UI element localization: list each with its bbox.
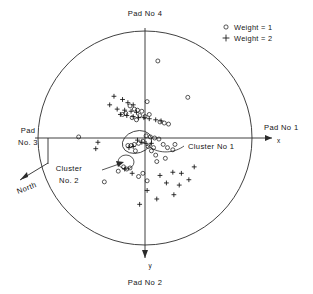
data-point-weight-2	[135, 138, 140, 143]
data-point-weight-1	[173, 142, 177, 146]
data-point-weight-1	[186, 95, 190, 99]
data-point-weight-2	[144, 141, 149, 146]
data-point-weight-2	[171, 192, 176, 197]
y-axis-arrowhead	[142, 250, 148, 258]
data-point-weight-2	[120, 97, 125, 102]
data-point-weight-1	[134, 118, 138, 122]
data-point-weight-2	[158, 173, 163, 178]
data-point-weight-1	[155, 160, 159, 164]
data-point-weight-2	[96, 140, 101, 145]
data-point-weight-2	[192, 164, 197, 169]
data-point-weight-2	[112, 94, 117, 99]
data-point-weight-2	[93, 146, 98, 151]
data-point-weight-2	[153, 117, 158, 122]
data-point-weight-1	[149, 149, 153, 153]
label-pad-no-2: Pad No 2	[128, 278, 162, 287]
data-point-weight-2	[139, 140, 144, 145]
data-point-weight-2	[147, 116, 152, 121]
data-point-weight-1	[133, 149, 137, 153]
data-point-weight-2	[159, 118, 164, 123]
data-point-weight-2	[179, 171, 184, 176]
data-point-weight-2	[130, 171, 135, 176]
label-cluster-no-2-line1: Cluster	[56, 164, 83, 173]
legend-circle-marker	[224, 25, 228, 29]
data-point-weight-1	[102, 180, 106, 184]
legend-label-weight-2: Weight = 2	[234, 34, 272, 43]
north-arrow-head	[20, 172, 28, 180]
data-point-weight-1	[145, 179, 149, 183]
data-point-weight-2	[107, 102, 112, 107]
data-point-weight-1	[163, 156, 167, 160]
data-point-weight-2	[129, 109, 134, 114]
data-point-weight-1	[141, 171, 145, 175]
data-point-weight-2	[125, 100, 130, 105]
data-point-weight-2	[136, 115, 141, 120]
data-point-weight-1	[165, 146, 169, 150]
data-point-weight-1	[116, 169, 120, 173]
data-point-weight-2	[137, 202, 142, 207]
data-point-weight-2	[186, 177, 191, 182]
data-point-weight-2	[170, 170, 175, 175]
data-point-weight-1	[161, 142, 165, 146]
data-point-weight-1	[140, 109, 144, 113]
scatter-plot-svg: Pad No 4 Pad No 1 x Pad No. 3 North y Pa…	[0, 0, 313, 294]
legend-label-weight-1: Weight = 1	[234, 23, 272, 32]
label-axis-x: x	[277, 137, 281, 144]
data-point-weight-1	[145, 100, 149, 104]
label-cluster-no-2-line2: No. 2	[59, 176, 79, 185]
label-pad-no-3-line2: No. 3	[18, 138, 38, 147]
data-point-weight-2	[177, 183, 182, 188]
data-point-weight-2	[115, 107, 120, 112]
data-point-weight-2	[154, 197, 159, 202]
label-pad-no-3-line1: Pad	[21, 126, 36, 135]
data-point-weight-1	[162, 121, 166, 125]
x-axis-arrowhead	[265, 135, 272, 141]
data-point-weight-1	[156, 59, 160, 63]
figure-root: Pad No 4 Pad No 1 x Pad No. 3 North y Pa…	[0, 0, 313, 294]
label-axis-y: y	[148, 262, 152, 270]
data-point-weight-1	[167, 122, 171, 126]
data-point-weight-2	[145, 188, 150, 193]
data-point-weight-1	[137, 175, 141, 179]
data-point-weight-1	[147, 112, 151, 116]
label-cluster-no-1: Cluster No 1	[188, 142, 234, 151]
label-pad-no-1: Pad No 1	[264, 123, 298, 132]
data-point-weight-2	[142, 115, 147, 120]
data-point-weight-2	[131, 102, 136, 107]
legend-plus-marker	[223, 35, 230, 42]
data-point-weight-2	[131, 144, 136, 149]
data-point-weight-2	[122, 108, 127, 113]
data-point-weight-1	[154, 153, 158, 157]
label-north: North	[15, 180, 37, 196]
data-point-weight-2	[127, 145, 132, 150]
label-pad-no-4: Pad No 4	[128, 9, 162, 18]
data-point-weight-2	[124, 113, 129, 118]
data-point-weight-2	[164, 181, 169, 186]
